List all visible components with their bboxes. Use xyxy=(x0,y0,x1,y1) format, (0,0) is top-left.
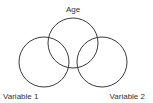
circle-age xyxy=(48,18,98,68)
label-variable-2: Variable 2 xyxy=(110,92,146,101)
label-age: Age xyxy=(66,5,81,14)
venn-diagram: Age Variable 1 Variable 2 xyxy=(0,0,153,103)
label-variable-1: Variable 1 xyxy=(3,92,39,101)
circle-variable-1 xyxy=(19,37,69,87)
circle-variable-2 xyxy=(77,37,127,87)
